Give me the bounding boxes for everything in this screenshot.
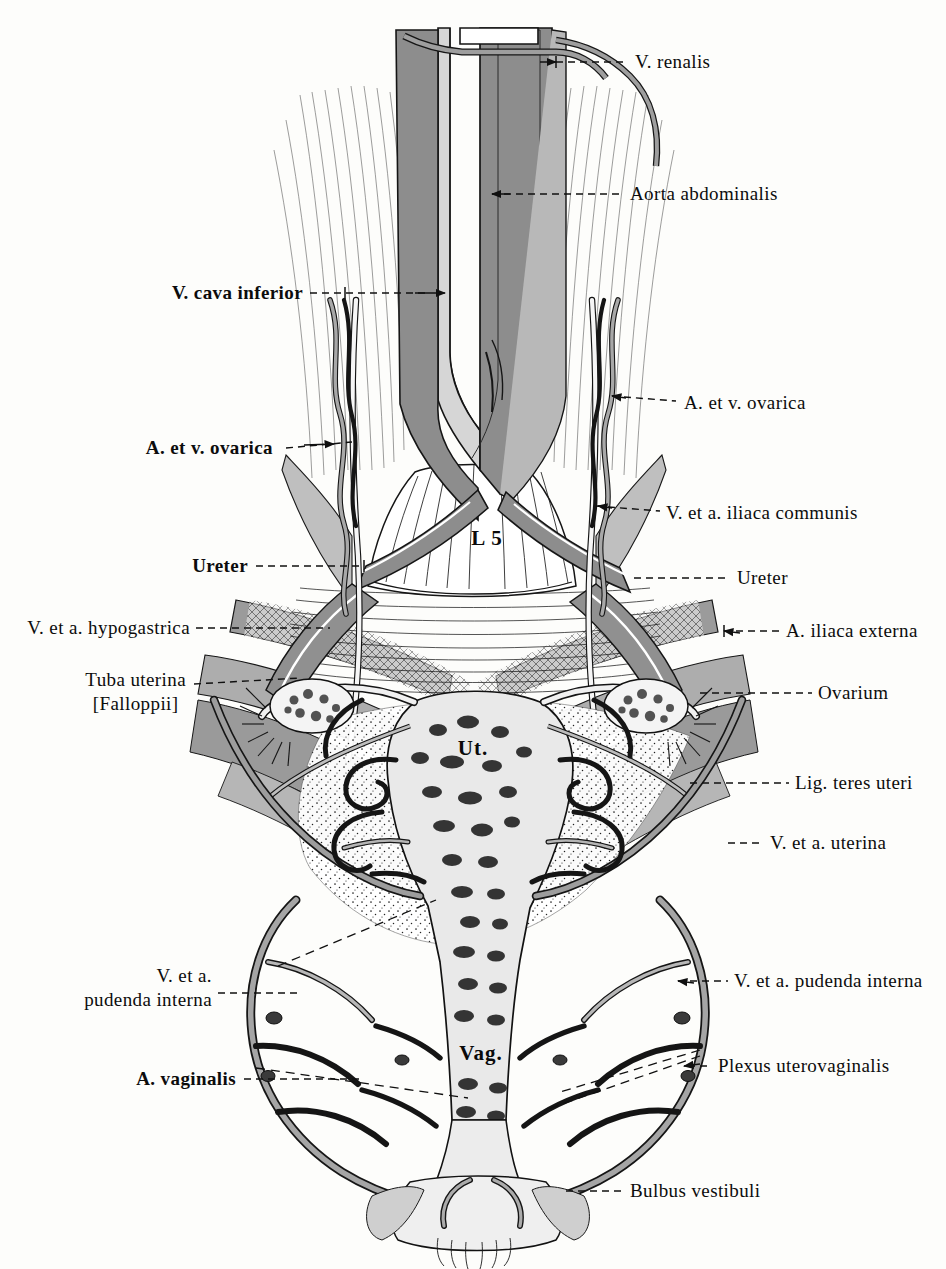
inline-label-vagina: Vag. (459, 1041, 503, 1066)
label-a-et-v-ovarica-right: A. et v. ovarica (684, 391, 806, 414)
inline-label-vertebra-l5: L 5 (471, 526, 503, 551)
label-v-et-a-pudenda-interna-left: V. et a. pudenda interna (54, 964, 212, 1012)
label-tuba-uterina-line2: [Falloppii] (85, 692, 186, 716)
label-a-iliaca-externa: A. iliaca externa (786, 619, 918, 642)
label-ureter-left: Ureter (192, 554, 248, 577)
label-ureter-right: Ureter (737, 566, 788, 589)
label-a-et-v-ovarica-left: A. et v. ovarica (146, 436, 273, 459)
label-lig-teres-uteri: Lig. teres uteri (795, 771, 913, 794)
label-a-vaginalis: A. vaginalis (136, 1067, 236, 1090)
label-aorta-abdominalis: Aorta abdominalis (630, 182, 778, 205)
inline-label-uterus: Ut. (458, 736, 488, 761)
label-v-et-a-uterina: V. et a. uterina (770, 831, 886, 854)
label-v-et-a-pudenda-interna-right: V. et a. pudenda interna (734, 969, 923, 992)
label-plexus-uterovaginalis: Plexus uterovaginalis (718, 1054, 889, 1077)
label-pudenda-interna-left-line1: V. et a. (156, 965, 212, 986)
label-bulbus-vestibuli: Bulbus vestibuli (630, 1179, 760, 1202)
label-v-et-a-iliaca-communis: V. et a. iliaca communis (666, 501, 858, 524)
anatomical-plate: V. renalis Aorta abdominalis V. cava inf… (0, 0, 946, 1269)
label-tuba-uterina-line1: Tuba uterina (85, 669, 186, 690)
label-pudenda-interna-left-line2: pudenda interna (54, 988, 212, 1012)
label-v-cava-inferior: V. cava inferior (172, 281, 303, 304)
label-tuba-uterina: Tuba uterina [Falloppii] (85, 668, 186, 716)
label-v-et-a-hypogastrica: V. et a. hypogastrica (27, 616, 190, 639)
label-v-renalis: V. renalis (635, 50, 710, 73)
label-ovarium: Ovarium (818, 681, 888, 704)
